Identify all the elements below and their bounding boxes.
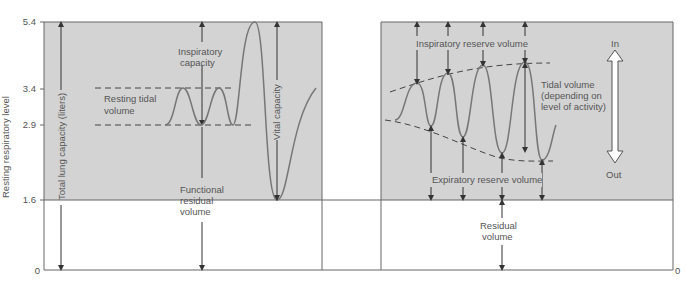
in-label: In — [611, 38, 619, 49]
vital-capacity-label: Vital capacity — [271, 84, 282, 140]
y-axis-label: Resting respiratory level — [0, 96, 11, 198]
residual-volume-label: Residual volume — [480, 220, 520, 242]
out-label: Out — [606, 169, 622, 180]
tick-0: 0 — [35, 265, 40, 276]
expiratory-reserve-volume-label: Expiratory reserve volume — [432, 174, 542, 185]
inspiratory-reserve-volume-label: Inspiratory reserve volume — [416, 38, 528, 49]
tidal-volume-label: Tidal volume (depending on level of acti… — [541, 79, 606, 112]
tick-1-6: 1.6 — [23, 194, 36, 205]
tick-2-9: 2.9 — [23, 119, 36, 130]
tick-5-4: 5.4 — [23, 16, 36, 27]
lung-volumes-diagram: 5.4 3.4 2.9 1.6 0 0 Resting respiratory … — [0, 0, 687, 282]
y-axis — [40, 22, 44, 200]
total-lung-capacity-label: Total lung capacity (liters) — [56, 93, 67, 200]
tick-3-4: 3.4 — [23, 83, 36, 94]
tick-right-0: 0 — [675, 265, 680, 276]
